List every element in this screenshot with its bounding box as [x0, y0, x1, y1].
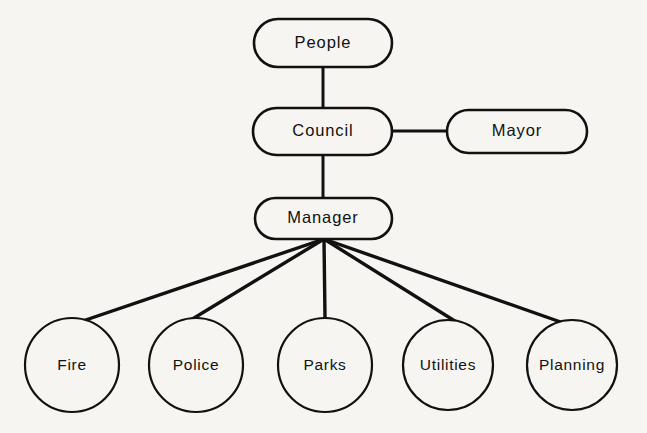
- node-mayor[interactable]: Mayor: [447, 110, 587, 153]
- node-utilities[interactable]: Utilities: [403, 320, 493, 410]
- node-council[interactable]: Council: [253, 108, 392, 155]
- node-police[interactable]: Police: [149, 318, 243, 412]
- org-chart-canvas: People Council Mayor Manager Fire Police…: [0, 0, 647, 433]
- manager-node-label: Manager: [287, 208, 358, 226]
- edge-manager-utilities: [324, 239, 466, 328]
- police-node-label: Police: [173, 356, 219, 373]
- org-chart-diagram: People Council Mayor Manager Fire Police…: [0, 0, 647, 433]
- people-node-label: People: [295, 33, 352, 51]
- planning-node-label: Planning: [539, 356, 605, 373]
- node-planning[interactable]: Planning: [527, 320, 617, 410]
- edge-manager-parks: [324, 239, 325, 318]
- fire-node-label: Fire: [57, 356, 87, 373]
- edge-manager-fire: [68, 239, 324, 326]
- edge-manager-planning: [324, 239, 572, 326]
- edge-manager-police: [176, 239, 324, 329]
- node-people[interactable]: People: [254, 19, 392, 67]
- node-manager[interactable]: Manager: [255, 198, 392, 239]
- council-node-label: Council: [292, 121, 353, 139]
- node-fire[interactable]: Fire: [25, 318, 119, 412]
- parks-node-label: Parks: [303, 356, 346, 373]
- mayor-node-label: Mayor: [492, 121, 542, 139]
- utilities-node-label: Utilities: [420, 356, 476, 373]
- node-parks[interactable]: Parks: [278, 318, 372, 412]
